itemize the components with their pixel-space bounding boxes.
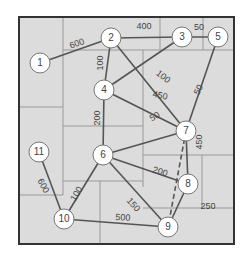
node-label: 10 <box>58 213 70 224</box>
edge-weight-label: 50 <box>194 22 204 32</box>
node-label: 8 <box>185 178 191 189</box>
node-5: 5 <box>208 27 228 47</box>
edge-weight-label: 200 <box>92 110 102 125</box>
node-2: 2 <box>101 28 121 48</box>
edge-weight-label: 500 <box>115 212 131 223</box>
node-1: 1 <box>30 53 50 73</box>
node-label: 2 <box>108 32 114 43</box>
edge-weight-label: 100 <box>95 55 105 70</box>
node-label: 6 <box>100 149 106 160</box>
edge-2-3 <box>111 37 182 38</box>
graph-diagram: 6004005010010050450200504502001502501005… <box>0 0 249 261</box>
edge-weight-label: 400 <box>136 21 151 31</box>
node-3: 3 <box>172 27 192 47</box>
node-6: 6 <box>93 145 113 165</box>
edge-weight-label: 450 <box>194 134 204 149</box>
node-label: 3 <box>179 31 185 42</box>
node-4: 4 <box>94 80 114 100</box>
node-label: 7 <box>183 125 189 136</box>
node-label: 5 <box>215 31 221 42</box>
node-10: 10 <box>54 209 74 229</box>
edge-weight-label: 250 <box>200 201 215 211</box>
node-7: 7 <box>176 121 196 141</box>
node-label: 4 <box>101 84 107 95</box>
node-label: 11 <box>34 146 45 157</box>
node-11: 11 <box>29 142 49 162</box>
node-label: 1 <box>37 57 43 68</box>
node-9: 9 <box>158 217 178 237</box>
node-label: 9 <box>165 221 171 232</box>
node-8: 8 <box>178 174 198 194</box>
